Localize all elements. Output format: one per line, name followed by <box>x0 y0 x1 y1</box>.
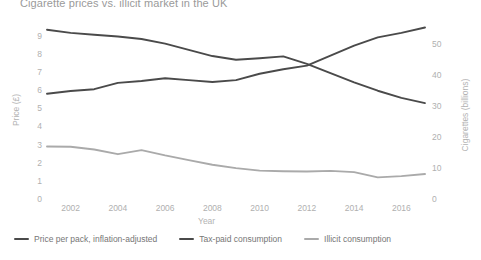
legend-item-2[interactable]: Illicit consumption <box>304 234 391 244</box>
chart-container: Cigarette prices vs. illicit market in t… <box>0 0 481 260</box>
legend-label-0: Price per pack, inflation-adjusted <box>34 234 157 244</box>
legend-label-2: Illicit consumption <box>324 234 391 244</box>
chart-legend: Price per pack, inflation-adjustedTax-pa… <box>14 234 391 244</box>
legend-item-0[interactable]: Price per pack, inflation-adjusted <box>14 234 157 244</box>
legend-label-1: Tax-paid consumption <box>199 234 282 244</box>
legend-item-1[interactable]: Tax-paid consumption <box>179 234 282 244</box>
legend-swatch-icon-1 <box>179 238 194 241</box>
legend-swatch-icon-0 <box>14 238 29 241</box>
plot-area <box>0 0 481 260</box>
series-line-2 <box>47 146 425 177</box>
legend-swatch-icon-2 <box>304 238 319 241</box>
